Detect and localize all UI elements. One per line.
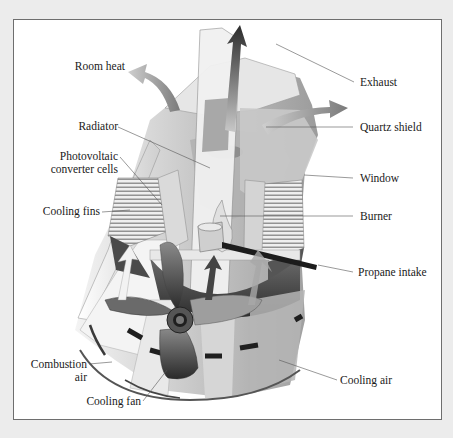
label-burner: Burner [360,210,392,223]
room-heat-arrow-left [128,64,180,112]
burner [198,222,224,252]
label-room-heat: Room heat [30,60,125,73]
label-exhaust: Exhaust [360,76,397,89]
label-combustion-air-line1: Combustion [10,358,87,371]
label-pv-cells-line2: converter cells [20,163,118,176]
label-quartz-shield: Quartz shield [360,121,422,134]
label-combustion-air-line2: air [10,371,87,384]
label-pv-cells-line1: Photovoltaic [20,150,118,163]
label-cooling-air: Cooling air [340,374,392,387]
label-cooling-fins: Cooling fins [10,205,100,218]
label-radiator: Radiator [30,120,118,133]
label-cooling-fan: Cooling fan [50,395,141,408]
label-propane-intake: Propane intake [358,266,427,279]
label-window: Window [360,172,399,185]
